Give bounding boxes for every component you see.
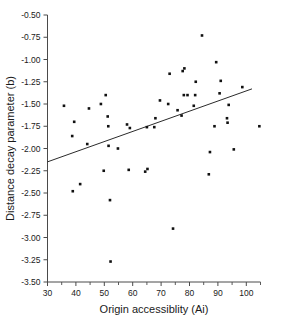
data-point xyxy=(63,104,66,107)
data-point xyxy=(168,72,171,75)
y-axis-title: Distance decay parameter (b) xyxy=(4,76,16,221)
scatter-plot-figure: -0.50-0.75-1.00-1.25-1.50-1.75-2.00-2.25… xyxy=(0,0,283,325)
data-point xyxy=(153,126,156,129)
data-point xyxy=(146,126,149,129)
y-tick-label: -3.00 xyxy=(21,233,41,243)
y-tick-label: -1.25 xyxy=(21,77,41,87)
x-tick-label: 80 xyxy=(185,288,195,298)
plot-canvas: -0.50-0.75-1.00-1.25-1.50-1.75-2.00-2.25… xyxy=(0,0,283,325)
data-point xyxy=(233,148,236,151)
y-tick-label: -2.50 xyxy=(21,188,41,198)
x-tick-label: 70 xyxy=(156,288,166,298)
data-point xyxy=(146,168,149,171)
data-point xyxy=(219,80,222,83)
data-point xyxy=(183,94,186,97)
data-point xyxy=(73,121,76,124)
data-point xyxy=(241,86,244,89)
data-point xyxy=(144,170,147,173)
data-point xyxy=(106,115,109,118)
data-point xyxy=(129,127,132,130)
data-point xyxy=(258,125,261,128)
y-tick-label: -2.25 xyxy=(21,166,41,176)
data-point xyxy=(167,103,170,106)
data-point xyxy=(226,117,229,120)
data-point xyxy=(181,70,184,73)
data-point xyxy=(180,114,183,117)
data-point xyxy=(218,92,221,95)
y-tick-label: -0.50 xyxy=(21,10,41,20)
data-point xyxy=(107,145,110,148)
data-point xyxy=(109,260,112,263)
data-point xyxy=(127,169,130,172)
x-tick-label: 60 xyxy=(128,288,138,298)
x-axis-title: Origin accessiblity (Ai) xyxy=(100,303,209,315)
y-tick-label: -3.50 xyxy=(21,277,41,287)
x-tick-label: 50 xyxy=(100,288,110,298)
data-point xyxy=(215,61,218,64)
data-point xyxy=(201,34,204,37)
data-point xyxy=(88,107,91,110)
data-point xyxy=(159,99,162,102)
data-point xyxy=(183,67,186,70)
data-point xyxy=(86,143,89,146)
y-tick-label: -1.50 xyxy=(21,99,41,109)
data-point xyxy=(100,103,103,106)
data-point xyxy=(71,135,74,138)
data-point xyxy=(208,173,211,176)
data-point xyxy=(172,227,175,230)
data-point xyxy=(109,199,112,202)
y-tick-label: -2.00 xyxy=(21,144,41,154)
x-tick-label: 100 xyxy=(239,288,253,298)
data-point xyxy=(192,104,195,107)
y-tick-label: -3.25 xyxy=(21,255,41,265)
data-point xyxy=(79,183,82,186)
data-point xyxy=(194,94,197,97)
y-tick-label: -1.75 xyxy=(21,121,41,131)
data-point xyxy=(154,117,157,120)
data-point xyxy=(194,80,197,83)
y-tick-label: -0.75 xyxy=(21,32,41,42)
data-point xyxy=(107,125,110,128)
y-tick-label: -1.00 xyxy=(21,55,41,65)
data-point xyxy=(213,125,216,128)
data-point xyxy=(117,147,120,150)
data-point xyxy=(209,151,212,154)
data-point xyxy=(176,109,179,112)
y-tick-label: -2.75 xyxy=(21,210,41,220)
x-tick-label: 90 xyxy=(213,288,223,298)
trend-line xyxy=(48,89,252,162)
x-tick-label: 30 xyxy=(43,288,53,298)
data-point xyxy=(126,123,129,126)
data-point xyxy=(186,94,189,97)
data-point xyxy=(227,104,230,107)
x-tick-label: 40 xyxy=(71,288,81,298)
data-point xyxy=(102,169,105,172)
data-point xyxy=(104,94,107,97)
data-point xyxy=(71,190,74,193)
data-point xyxy=(226,121,229,124)
